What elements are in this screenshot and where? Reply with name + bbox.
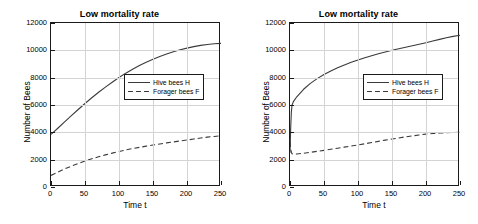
y-axis-tick-label: 2000 (30, 154, 47, 163)
y-axis-tick (51, 105, 55, 106)
x-axis-tick (85, 181, 86, 185)
y-axis-tick (290, 105, 294, 106)
x-axis-tick (426, 181, 427, 185)
legend-key-solid (367, 79, 389, 86)
chart-panel-left: Low mortality rate Number of Bees Time t… (0, 0, 239, 224)
x-axis-tick-label: 200 (419, 189, 432, 198)
legend-item-hive: Hive bees H (367, 78, 438, 87)
grid-line-horizontal (51, 160, 219, 161)
legend: Hive bees H Forager bees F (363, 74, 443, 100)
x-axis-tick-label: 250 (214, 189, 227, 198)
x-axis-tick (460, 181, 461, 185)
grid-line-horizontal (51, 132, 219, 133)
legend-item-forager: Forager bees F (367, 87, 438, 96)
grid-line-vertical (153, 23, 154, 185)
x-axis-tick (324, 181, 325, 185)
x-axis-tick-label: 250 (453, 189, 466, 198)
grid-line-vertical (358, 23, 359, 185)
x-axis-label: Time t (289, 200, 459, 210)
x-axis-label: Time t (50, 200, 220, 210)
chart-panel-right: Low mortality rate Number of Bees Time t… (239, 0, 478, 224)
legend-key-solid (128, 79, 150, 86)
x-axis-tick (392, 181, 393, 185)
x-axis-tick-label: 200 (180, 189, 193, 198)
grid-line-vertical (119, 23, 120, 185)
legend-item-hive: Hive bees H (128, 78, 199, 87)
legend-key-dashed (367, 88, 389, 95)
x-axis-tick-label: 0 (48, 189, 52, 198)
grid-line-horizontal (290, 160, 458, 161)
y-axis-tick (51, 50, 55, 51)
y-axis-tick-label: 0 (282, 182, 286, 191)
y-axis-tick (290, 78, 294, 79)
y-axis-tick (290, 187, 294, 188)
y-axis-tick (51, 160, 55, 161)
y-axis-tick (51, 23, 55, 24)
y-axis-tick (51, 187, 55, 188)
figure-container: Low mortality rate Number of Bees Time t… (0, 0, 478, 224)
x-axis-tick-label: 50 (80, 189, 88, 198)
legend-label-hive: Hive bees H (153, 78, 190, 87)
plot-area (289, 22, 459, 186)
y-axis-tick-label: 6000 (269, 100, 286, 109)
grid-line-horizontal (290, 50, 458, 51)
grid-line-vertical (426, 23, 427, 185)
x-axis-tick (187, 181, 188, 185)
series-line-forager (290, 132, 460, 154)
x-axis-tick-label: 100 (351, 189, 364, 198)
x-axis-tick (290, 181, 291, 185)
x-axis-tick (119, 181, 120, 185)
y-axis-tick-label: 4000 (30, 127, 47, 136)
legend-label-forager: Forager bees F (392, 87, 438, 96)
y-axis-tick-label: 8000 (269, 72, 286, 81)
x-axis-tick-label: 150 (385, 189, 398, 198)
y-axis-tick-label: 0 (43, 182, 47, 191)
y-axis-tick-label: 8000 (30, 72, 47, 81)
x-axis-tick (153, 181, 154, 185)
y-axis-tick-label: 2000 (269, 154, 286, 163)
plot-area (50, 22, 220, 186)
legend-label-hive: Hive bees H (392, 78, 429, 87)
y-axis-tick (290, 50, 294, 51)
grid-line-horizontal (290, 132, 458, 133)
y-axis-tick-label: 10000 (26, 45, 47, 54)
y-axis-tick (290, 132, 294, 133)
grid-line-vertical (85, 23, 86, 185)
series-line-forager (51, 136, 221, 176)
y-axis-tick-label: 10000 (265, 45, 286, 54)
y-axis-tick-label: 12000 (265, 18, 286, 27)
grid-line-horizontal (51, 105, 219, 106)
x-axis-tick (51, 181, 52, 185)
y-axis-tick (290, 160, 294, 161)
grid-line-horizontal (290, 105, 458, 106)
grid-line-vertical (324, 23, 325, 185)
x-axis-tick (358, 181, 359, 185)
y-axis-tick (51, 132, 55, 133)
y-axis-tick (51, 78, 55, 79)
x-axis-tick-label: 100 (112, 189, 125, 198)
legend: Hive bees H Forager bees F (124, 74, 204, 100)
grid-line-horizontal (51, 50, 219, 51)
grid-line-vertical (187, 23, 188, 185)
x-axis-tick (221, 181, 222, 185)
y-axis-tick-label: 4000 (269, 127, 286, 136)
grid-line-vertical (392, 23, 393, 185)
x-axis-tick-label: 0 (287, 189, 291, 198)
curves-layer (290, 23, 458, 185)
legend-label-forager: Forager bees F (153, 87, 199, 96)
y-axis-tick (290, 23, 294, 24)
curves-layer (51, 23, 219, 185)
y-axis-tick-label: 12000 (26, 18, 47, 27)
y-axis-tick-label: 6000 (30, 100, 47, 109)
x-axis-tick-label: 150 (146, 189, 159, 198)
legend-item-forager: Forager bees F (128, 87, 199, 96)
legend-key-dashed (128, 88, 150, 95)
x-axis-tick-label: 50 (319, 189, 327, 198)
